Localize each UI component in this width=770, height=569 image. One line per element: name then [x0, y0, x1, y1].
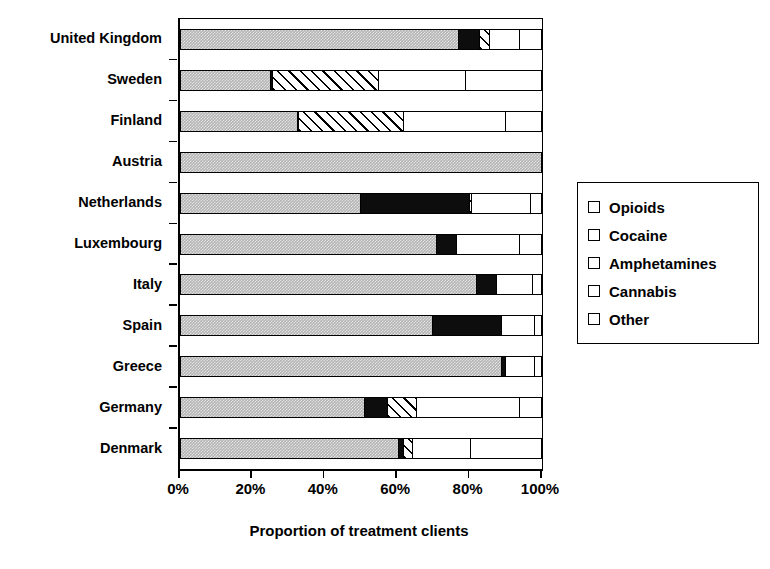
bar-row [180, 315, 542, 336]
bar-segment-amphetamines [299, 111, 404, 132]
x-axis-tick [250, 470, 252, 478]
legend-item-opioids[interactable]: Opioids [588, 193, 750, 221]
legend-item-amphetamines[interactable]: Amphetamines [588, 249, 750, 277]
y-axis-label-sweden: Sweden [0, 71, 162, 87]
bar-segment-opioids [180, 29, 459, 50]
bar-segment-opioids [180, 274, 477, 295]
x-axis-tick-label: 60% [380, 480, 410, 497]
y-axis-tick [169, 427, 177, 429]
bar-segment-other [520, 29, 542, 50]
y-axis-label-greece: Greece [0, 358, 162, 374]
bar-row [180, 152, 542, 173]
bar-segment-opioids [180, 234, 437, 255]
legend-swatch-cannabis-icon [588, 285, 600, 297]
bar-segment-cocaine [433, 315, 502, 336]
y-axis-label-united-kingdom: United Kingdom [0, 30, 162, 46]
legend-swatch-other-icon [588, 313, 600, 325]
x-axis-tick [540, 470, 542, 478]
y-axis-tick [169, 304, 177, 306]
legend-label: Opioids [609, 200, 665, 215]
x-axis-tick [323, 470, 325, 478]
bar-segment-opioids [180, 315, 433, 336]
bar-segment-cannabis [379, 70, 466, 91]
bar-segment-other [535, 315, 542, 336]
y-axis-label-denmark: Denmark [0, 440, 162, 456]
legend-item-cannabis[interactable]: Cannabis [588, 277, 750, 305]
bar-segment-other [466, 70, 542, 91]
legend-swatch-cocaine-icon [588, 229, 600, 241]
y-axis-tick [169, 345, 177, 347]
x-axis-tick [395, 470, 397, 478]
legend-swatch-amphetamines-icon [588, 257, 600, 269]
legend-label: Cannabis [609, 284, 677, 299]
x-axis-title: Proportion of treatment clients [178, 522, 540, 539]
bar-segment-opioids [180, 193, 361, 214]
y-axis-tick [169, 59, 177, 61]
chart-legend: OpioidsCocaineAmphetaminesCannabisOther [577, 182, 759, 344]
bar-segment-other [533, 274, 542, 295]
bar-segment-other [535, 356, 542, 377]
x-axis-tick [468, 470, 470, 478]
x-axis-tick [178, 470, 180, 478]
bar-segment-amphetamines [404, 438, 413, 459]
bar-segment-cannabis [413, 438, 471, 459]
x-axis-ticks: 0%20%40%60%80%100% [178, 470, 542, 480]
bar-segment-cannabis [457, 234, 520, 255]
bar-segment-cannabis [472, 193, 531, 214]
bar-segment-cocaine [477, 274, 497, 295]
bar-row [180, 274, 542, 295]
bar-segment-cannabis [490, 29, 521, 50]
bar-segment-opioids [180, 111, 298, 132]
y-axis-label-spain: Spain [0, 317, 162, 333]
x-axis-tick-label: 100% [521, 480, 559, 497]
bar-row [180, 70, 542, 91]
legend-item-cocaine[interactable]: Cocaine [588, 221, 750, 249]
y-axis-category-labels: United KingdomSwedenFinlandAustriaNether… [0, 18, 170, 468]
bar-row [180, 356, 542, 377]
bar-segment-opioids [180, 70, 271, 91]
bar-segment-opioids [180, 356, 502, 377]
bar-segment-other [471, 438, 542, 459]
x-axis-tick-label: 20% [235, 480, 265, 497]
legend-swatch-opioids-icon [588, 201, 600, 213]
bar-row [180, 234, 542, 255]
bar-segment-cannabis [417, 397, 520, 418]
y-axis-label-finland: Finland [0, 112, 162, 128]
y-axis-label-germany: Germany [0, 399, 162, 415]
y-axis-label-italy: Italy [0, 276, 162, 292]
bar-row [180, 111, 542, 132]
legend-label: Amphetamines [609, 256, 717, 271]
y-axis-tick [169, 223, 177, 225]
bar-segment-cannabis [502, 315, 535, 336]
stacked-bar-chart: United KingdomSwedenFinlandAustriaNether… [0, 0, 770, 569]
bar-segment-amphetamines [273, 70, 379, 91]
bar-segment-cannabis [506, 356, 535, 377]
x-axis-tick-label: 0% [167, 480, 189, 497]
bar-segment-cocaine [361, 193, 470, 214]
bar-row [180, 438, 542, 459]
bar-segment-amphetamines [480, 29, 489, 50]
legend-label: Cocaine [609, 228, 667, 243]
bar-segment-cocaine [459, 29, 481, 50]
bar-segment-cocaine [437, 234, 457, 255]
bar-segment-opioids [180, 397, 365, 418]
plot-area [178, 18, 543, 471]
y-axis-tick [169, 386, 177, 388]
legend-label: Other [609, 312, 649, 327]
bar-row [180, 193, 542, 214]
bar-row [180, 397, 542, 418]
y-axis-label-luxembourg: Luxembourg [0, 235, 162, 251]
bar-segment-other [506, 111, 542, 132]
bar-segment-cannabis [497, 274, 533, 295]
y-axis-tick [169, 100, 177, 102]
x-axis-tick-label: 80% [453, 480, 483, 497]
bar-segment-cannabis [404, 111, 505, 132]
y-axis-tick [169, 141, 177, 143]
legend-item-other[interactable]: Other [588, 305, 750, 333]
bar-segment-amphetamines [388, 397, 417, 418]
bar-segment-other [531, 193, 542, 214]
bar-segment-other [520, 234, 542, 255]
y-axis-label-austria: Austria [0, 153, 162, 169]
bar-segment-opioids [180, 152, 542, 173]
y-axis-label-netherlands: Netherlands [0, 194, 162, 210]
